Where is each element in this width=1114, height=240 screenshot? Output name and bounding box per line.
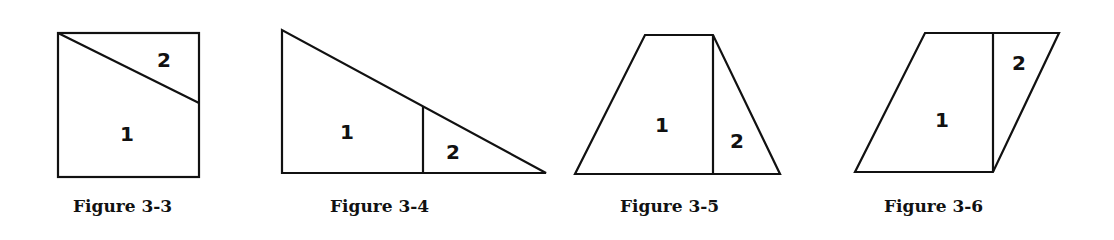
figure-3-3: 2 1	[58, 33, 199, 177]
region-2-label: 2	[157, 48, 171, 72]
region-2-label: 2	[1012, 51, 1026, 75]
region-1-label: 1	[340, 120, 354, 144]
diagonal-divider	[58, 33, 199, 103]
figure-3-6-caption: Figure 3-6	[884, 196, 983, 216]
region-1-label: 1	[935, 108, 949, 132]
region-1-label: 1	[120, 122, 134, 146]
trapezoid-outline	[575, 35, 780, 174]
square-outline	[58, 33, 199, 177]
figure-3-6: 1 2	[855, 33, 1059, 172]
figure-3-4-caption: Figure 3-4	[330, 196, 429, 216]
right-triangle-outline	[282, 30, 546, 173]
figure-3-3-caption: Figure 3-3	[73, 196, 172, 216]
parallelogram-outline	[855, 33, 1059, 172]
region-2-label: 2	[446, 140, 460, 164]
figure-3-5: 1 2	[575, 35, 780, 174]
region-2-label: 2	[730, 129, 744, 153]
figure-3-5-caption: Figure 3-5	[620, 196, 719, 216]
figure-3-4: 1 2	[282, 30, 546, 173]
region-1-label: 1	[655, 113, 669, 137]
